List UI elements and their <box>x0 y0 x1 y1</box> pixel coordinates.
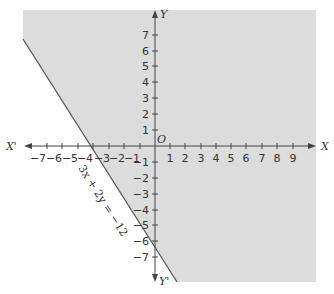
y-tick-label: 1 <box>142 124 149 137</box>
y-axis-arrow-down-icon <box>152 274 158 282</box>
y-tick-label: −3 <box>133 188 149 201</box>
x-tick-label: 5 <box>228 152 235 165</box>
x-tick-label: 4 <box>213 152 220 165</box>
x-tick-label: 6 <box>243 152 250 165</box>
y-tick-label: −5 <box>133 219 149 232</box>
x-tick-label: 8 <box>274 152 281 165</box>
y-tick-label: −7 <box>133 251 149 264</box>
x-axis-label: X <box>320 140 330 153</box>
y-tick-label: 3 <box>142 92 149 105</box>
x-tick-label: 7 <box>259 152 266 165</box>
x-tick-label: −3 <box>94 152 110 165</box>
y-tick-label: 4 <box>142 76 149 89</box>
y-tick-label: 6 <box>142 45 149 58</box>
y-tick-label: −1 <box>133 156 149 169</box>
y-tick-label: −4 <box>133 204 149 217</box>
x-tick-label: 2 <box>182 152 189 165</box>
x-tick-label: 1 <box>167 152 174 165</box>
x-axis-arrow-left-icon <box>24 143 32 149</box>
x-negative-axis-label: X' <box>5 140 17 153</box>
x-tick-label: 9 <box>290 152 297 165</box>
y-tick-label: 5 <box>142 60 149 73</box>
y-tick-label: 2 <box>142 108 149 121</box>
x-tick-label: −7 <box>30 152 46 165</box>
y-tick-label: −2 <box>133 172 149 185</box>
origin-label: O <box>157 133 166 146</box>
x-tick-label: −5 <box>62 152 78 165</box>
inequality-graph: −7 −6 −5 −4 −3 −2 −1 1 2 3 4 5 6 7 8 9 7… <box>0 0 334 294</box>
y-tick-label: 7 <box>142 29 149 42</box>
x-tick-label: 3 <box>198 152 205 165</box>
y-tick-label: −6 <box>133 235 149 248</box>
x-tick-label: −2 <box>109 152 125 165</box>
x-tick-label: −6 <box>46 152 62 165</box>
y-negative-axis-label: Y' <box>159 275 169 288</box>
